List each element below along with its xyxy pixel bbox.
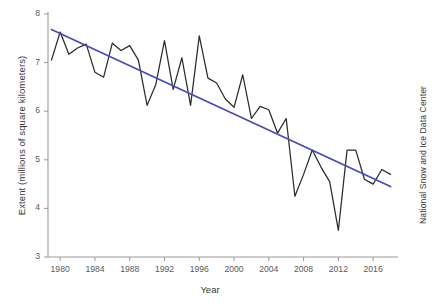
axis-lines (48, 12, 398, 257)
y-axis-ticks (44, 14, 48, 257)
y-tick-label: 3 (22, 251, 40, 261)
linear-trend-line (51, 30, 390, 187)
sea-ice-extent-line (51, 32, 390, 230)
sea-ice-extent-chart: Extent (millions of square kilometers) Y… (0, 0, 440, 306)
x-axis-ticks (60, 257, 373, 261)
x-axis-title: Year (0, 284, 420, 295)
chart-credit: National Snow and Ice Data Center (418, 50, 428, 260)
y-tick-label: 4 (22, 202, 40, 212)
y-axis-title: Extent (millions of square kilometers) (16, 11, 27, 261)
y-tick-label: 5 (22, 154, 40, 164)
y-tick-label: 6 (22, 105, 40, 115)
y-tick-label: 7 (22, 57, 40, 67)
plot-area (0, 0, 440, 306)
x-tick-label: 2016 (353, 264, 393, 274)
y-tick-label: 8 (22, 8, 40, 18)
